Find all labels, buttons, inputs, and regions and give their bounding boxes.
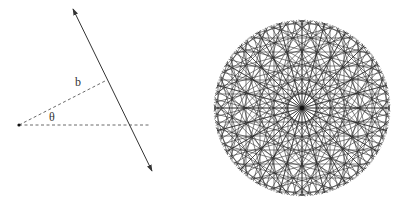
label-theta: θ — [49, 110, 55, 124]
diagram-canvas: b θ — [0, 0, 403, 211]
pattern-center-dot — [300, 106, 304, 110]
double-arrow-line — [73, 9, 152, 171]
line-parameterization-diagram: b θ — [17, 9, 152, 171]
label-b: b — [75, 75, 81, 89]
line-arrangement-pattern — [214, 20, 390, 196]
perpendicular-distance-b-line — [19, 80, 107, 125]
origin-point — [17, 123, 20, 126]
